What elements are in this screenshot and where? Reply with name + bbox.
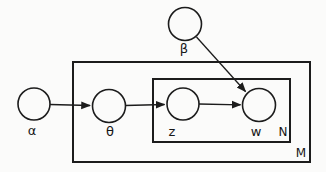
node-alpha-label: α <box>28 123 37 138</box>
plate-diagram-canvas: α β θ z w N M <box>0 0 326 172</box>
node-w-label: w <box>251 124 262 139</box>
plate-M-label: M <box>296 146 306 160</box>
node-z-circle <box>167 88 199 120</box>
edge-z-w <box>199 104 241 105</box>
node-theta-label: θ <box>106 124 114 139</box>
node-beta-label: β <box>180 41 188 56</box>
edge-alpha-theta <box>50 105 90 106</box>
edge-beta-w <box>197 37 246 92</box>
node-beta-circle <box>169 8 202 41</box>
node-w-circle <box>243 89 276 122</box>
node-theta-circle <box>93 90 126 123</box>
plate-N-label: N <box>279 125 288 139</box>
node-z-label: z <box>169 124 176 139</box>
node-alpha-circle <box>18 88 50 120</box>
plate-diagram-figure: α β θ z w N M <box>0 0 326 172</box>
edge-theta-z <box>125 105 165 106</box>
